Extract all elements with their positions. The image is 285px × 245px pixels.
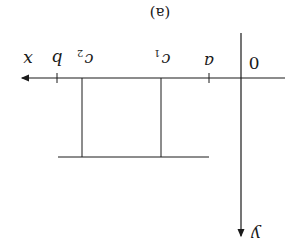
origin-label: 0 bbox=[249, 53, 260, 73]
x-axis-label: x bbox=[23, 50, 33, 70]
y-axis-label: y bbox=[251, 225, 262, 245]
diagram-canvas: (a) 0 a b c 1 c 2 x y bbox=[0, 0, 285, 245]
svg-text:2: 2 bbox=[77, 48, 83, 59]
marker-label-c2: c 2 bbox=[77, 48, 94, 69]
svg-text:c: c bbox=[161, 50, 170, 69]
svg-text:1: 1 bbox=[154, 48, 160, 59]
figure-caption: (a) bbox=[150, 4, 171, 22]
marker-label-c1: c 1 bbox=[154, 48, 171, 69]
svg-text:c: c bbox=[84, 50, 93, 69]
tick-label-a: a bbox=[204, 52, 214, 72]
tick-label-b: b bbox=[52, 49, 63, 69]
